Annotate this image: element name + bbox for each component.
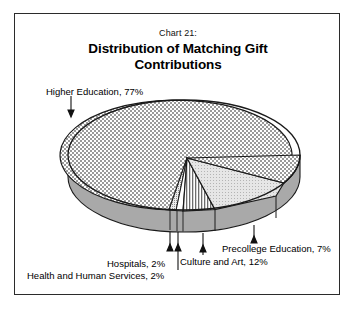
chart-header: Chart 21: Distribution of Matching Gift …	[15, 27, 341, 73]
callout-label-health-and-human-services: Health and Human Services, 2%	[27, 270, 164, 281]
callout-label-precollege-education: Precollege Education, 7%	[222, 243, 331, 254]
chart-number: Chart 21:	[15, 27, 341, 39]
chart-title-line-2: Contributions	[15, 57, 341, 73]
callout-label-culture-and-art: Culture and Art, 12%	[180, 256, 268, 267]
callout-label-higher-education: Higher Education, 77%	[46, 86, 143, 97]
chart-title-line-1: Distribution of Matching Gift	[15, 41, 341, 57]
callout-label-hospitals: Hospitals, 2%	[107, 258, 165, 269]
